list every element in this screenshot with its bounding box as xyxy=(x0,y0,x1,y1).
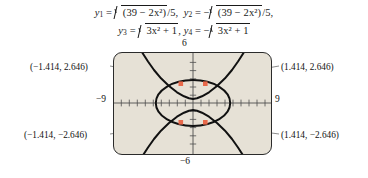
equation-y4-subscript: 4 xyxy=(188,29,192,38)
equation-line-1: y1 = (39 − 2x²)/5, y2 = −(39 − 2x²)/5, xyxy=(0,4,368,22)
axis-label-ymin: −6 xyxy=(180,156,190,166)
point-marker-bottom-right xyxy=(203,120,208,125)
equation-y1: y1 = (39 − 2x²)/5, xyxy=(95,4,179,22)
equation-y1-radicand: (39 − 2x²) xyxy=(121,5,167,20)
equation-y2-radicand: (39 − 2x²) xyxy=(216,5,262,20)
equation-y3-equals: = xyxy=(130,25,136,36)
equation-y3-radical: 3x² + 1 xyxy=(138,22,178,38)
figure-root: y1 = (39 − 2x²)/5, y2 = −(39 − 2x²)/5, y… xyxy=(0,0,368,178)
graph-window[interactable] xyxy=(113,52,272,155)
equation-y2-equals: = xyxy=(195,7,201,18)
graph-screen xyxy=(113,52,272,155)
equation-y3-radicand: 3x² + 1 xyxy=(145,23,178,38)
graph-plot xyxy=(114,53,272,155)
equation-y3: y3 = 3x² + 1, xyxy=(118,22,181,40)
callout-bottom-left: (−1.414, −2.646) xyxy=(24,130,87,140)
point-marker-bottom-left xyxy=(179,120,184,125)
equation-block: y1 = (39 − 2x²)/5, y2 = −(39 − 2x²)/5, y… xyxy=(0,4,368,41)
equation-y3-subscript: 3 xyxy=(123,29,127,38)
equation-y4: y4 = −3x² + 1 xyxy=(184,22,250,40)
point-marker-top-left xyxy=(179,81,184,86)
equation-y2-subscript: 2 xyxy=(188,10,192,19)
callout-top-right: (1.414, 2.646) xyxy=(281,62,334,72)
axis-label-xmax: 9 xyxy=(275,94,280,104)
equation-y1-subscript: 1 xyxy=(99,10,103,19)
equation-y4-radical: 3x² + 1 xyxy=(210,22,250,38)
callout-bottom-right: (1.414, −2.646) xyxy=(281,130,339,140)
equation-y2-tail: /5, xyxy=(262,7,273,18)
equation-y2: y2 = −(39 − 2x²)/5, xyxy=(184,4,274,22)
equation-y1-equals: = xyxy=(106,7,112,18)
equation-y4-equals: = xyxy=(195,25,201,36)
callout-top-left: (−1.414, 2.646) xyxy=(30,62,88,72)
equation-y4-radicand: 3x² + 1 xyxy=(216,23,249,38)
axis-label-xmin: −9 xyxy=(96,94,106,104)
axis-label-ymax: 6 xyxy=(182,38,187,48)
point-marker-top-right xyxy=(203,81,208,86)
equation-y1-radical: (39 − 2x²) xyxy=(115,4,167,20)
equation-y1-tail: /5, xyxy=(167,7,178,18)
equation-y3-tail: , xyxy=(178,25,181,36)
equation-y2-radical: (39 − 2x²) xyxy=(210,4,262,20)
